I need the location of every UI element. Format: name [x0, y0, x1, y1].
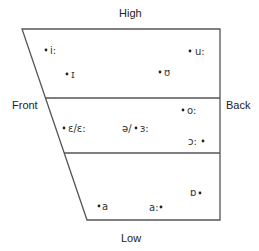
vowel-dot [189, 50, 192, 53]
vowel-dot [182, 109, 185, 112]
vowel-symbol: ɔ: [188, 136, 197, 147]
vowel-open-o-long: ɔ: [188, 136, 204, 147]
vowel-symbol: a [102, 201, 108, 212]
vowel-dot [160, 206, 163, 209]
vowel-symbol: ə/ [122, 123, 132, 134]
vowel-symbol: u: [195, 46, 205, 57]
label-low: Low [121, 232, 141, 244]
vowel-dot [45, 49, 48, 52]
vowel-o-long: o: [182, 105, 197, 116]
vowel-i-long: i: [45, 45, 57, 56]
vowel-dot [159, 71, 162, 74]
vowel-u-short: ʊ [159, 67, 171, 78]
label-front: Front [12, 99, 38, 111]
vowel-i-short: ɪ [66, 69, 75, 80]
vowel-symbol: ɒ [190, 187, 196, 198]
vowel-symbol: o: [187, 105, 197, 116]
vowel-schwa: ə/ [122, 123, 132, 134]
vowel-a-long: a: [149, 202, 162, 213]
vowel-dot [66, 73, 69, 76]
vowel-dot [199, 192, 202, 195]
vowel-dot [63, 127, 66, 130]
vowel-dot [98, 205, 101, 208]
label-high: High [119, 7, 142, 19]
label-back: Back [226, 99, 251, 111]
vowel-chart: High Low Front Back i: u: ɪ ʊ o: ɛ/ɛ: ə/… [0, 0, 259, 251]
vowel-a-short: a [98, 201, 109, 212]
vowel-symbol: ɪ [71, 69, 75, 80]
vowel-dot [202, 140, 205, 143]
vowel-u-long: u: [189, 46, 205, 57]
vowel-symbol: ɜ: [140, 123, 149, 134]
vowel-symbol: a: [149, 202, 159, 213]
vowel-o-open-back: ɒ [190, 187, 201, 198]
vowel-symbol: ʊ [164, 67, 170, 78]
vowel-dot [135, 127, 138, 130]
vowel-symbol: ɛ/ɛ: [68, 123, 86, 134]
vowel-e-open: ɛ/ɛ: [63, 123, 86, 134]
vowel-symbol: i: [50, 45, 56, 56]
vowel-er-long: ɜ: [135, 123, 149, 134]
